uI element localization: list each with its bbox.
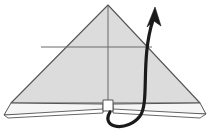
center-slot bbox=[103, 100, 113, 111]
arrow-head-icon bbox=[147, 7, 161, 27]
origami-diagram-canvas: Origami fold diagram Shaded triangular f… bbox=[0, 0, 210, 134]
main-triangle bbox=[11, 5, 200, 103]
origami-figure: Origami fold diagram Shaded triangular f… bbox=[0, 0, 210, 134]
